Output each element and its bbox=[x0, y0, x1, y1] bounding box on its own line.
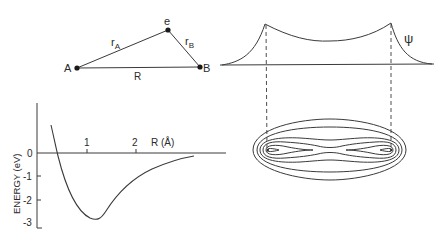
label-R: R bbox=[134, 71, 141, 82]
wavefunction-baseline bbox=[220, 64, 434, 65]
nucleus-b-contour-dot bbox=[390, 149, 392, 151]
label-rA: rA bbox=[111, 36, 121, 51]
edge-rB bbox=[168, 30, 200, 67]
energy-plot: 0 -1 -2 -3 1 2 R (Å) ENERGY (eV) bbox=[11, 103, 226, 228]
y-axis-label: ENERGY (eV) bbox=[11, 153, 22, 214]
edge-rA bbox=[77, 30, 168, 68]
nucleus-a-dot bbox=[74, 65, 79, 70]
label-e: e bbox=[164, 15, 170, 27]
contour-left-lobe bbox=[266, 145, 313, 154]
contour-right-lobe bbox=[346, 145, 393, 154]
label-B: B bbox=[203, 62, 210, 74]
y-tick-label-minus1: -1 bbox=[23, 171, 32, 182]
x-tick-label-1: 1 bbox=[84, 137, 90, 148]
wavefunction-curve bbox=[222, 23, 432, 65]
triangle-geometry: A e B rA rB R bbox=[64, 15, 210, 82]
contour-plot bbox=[253, 119, 406, 180]
y-tick-label-minus3: -3 bbox=[23, 217, 32, 228]
h2-plus-molecular-ion-diagram: A e B rA rB R 0 -1 -2 -3 1 2 R (Å) ENERG… bbox=[0, 0, 447, 235]
x-tick-label-2: 2 bbox=[132, 137, 138, 148]
projection-lines bbox=[266, 24, 391, 152]
edge-R bbox=[77, 67, 200, 68]
label-rB: rB bbox=[185, 35, 194, 50]
label-A: A bbox=[64, 62, 72, 74]
projection-line-left bbox=[266, 25, 267, 152]
nucleus-a-contour-dot bbox=[267, 149, 269, 151]
electron-dot bbox=[165, 27, 170, 32]
contour-4 bbox=[263, 142, 396, 158]
y-tick-label-minus2: -2 bbox=[23, 195, 32, 206]
x-axis-label: R (Å) bbox=[151, 136, 174, 148]
y-tick-label-0: 0 bbox=[27, 148, 33, 159]
psi-label: ψ bbox=[404, 31, 413, 46]
nucleus-b-dot bbox=[197, 64, 202, 69]
wavefunction-plot: ψ bbox=[220, 23, 434, 65]
